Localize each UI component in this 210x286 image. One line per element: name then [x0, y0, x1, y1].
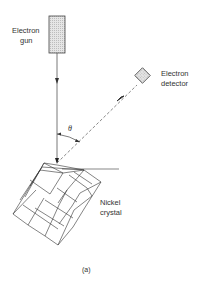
nickel-crystal-label-line2: crystal [100, 208, 122, 218]
electron-gun-label-line2: gun [12, 36, 40, 46]
arc-arrow-left-icon [57, 133, 61, 136]
nickel-crystal [13, 163, 101, 245]
electron-gun [49, 16, 65, 53]
electron-detector [135, 68, 151, 84]
theta-label: θ [68, 124, 72, 134]
incident-arrow-icon [55, 78, 59, 84]
electron-detector-label-line1: Electron [161, 69, 189, 79]
electron-detector-label: Electron detector [161, 69, 189, 89]
impact-arrow-icon [55, 158, 59, 164]
nickel-crystal-label: Nickel crystal [100, 198, 122, 218]
electron-gun-label: Electron gun [12, 26, 40, 46]
nickel-crystal-label-line1: Nickel [100, 198, 122, 208]
figure-caption: (a) [82, 265, 91, 275]
electron-detector-label-line2: detector [161, 79, 189, 89]
electron-gun-label-line1: Electron [12, 26, 40, 36]
